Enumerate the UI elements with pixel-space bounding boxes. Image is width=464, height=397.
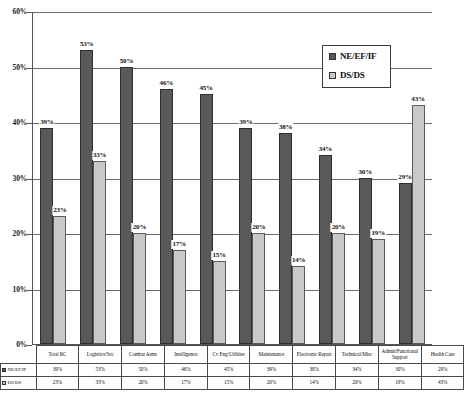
bar-group: 29%43% (392, 12, 432, 344)
bar-value-label: 17% (172, 240, 187, 249)
bar-ne-ef-if: 50% (120, 67, 133, 345)
bar-group: 38%14% (272, 12, 312, 344)
bar-value-label: 20% (331, 223, 346, 232)
bar-group: 46%17% (153, 12, 193, 344)
bar-ne-ef-if: 34% (319, 155, 332, 344)
bar-value-label: 43% (410, 95, 425, 104)
bar-ne-ef-if: 39% (239, 128, 252, 344)
bar-ne-ef-if: 46% (160, 89, 173, 344)
y-axis-label: 50% (0, 63, 27, 72)
bar-group: 39%23% (34, 12, 74, 344)
table-value-cell: 17% (164, 377, 207, 390)
table-value-cell: 45% (207, 364, 250, 377)
table-swatch-icon (2, 368, 6, 372)
table-row: DS/DS23%33%20%17%15%20%14%20%19%43% (1, 377, 464, 390)
bar-value-label: 46% (159, 79, 174, 88)
bar-ds-ds: 20% (252, 233, 265, 344)
table-value-cell: 30% (378, 364, 421, 377)
bar-group: 39%20% (232, 12, 272, 344)
table-value-cell: 46% (164, 364, 207, 377)
bar-value-label: 39% (39, 118, 54, 127)
bar-value-label: 45% (198, 84, 213, 93)
category-header-cell: Intelligence (164, 346, 207, 364)
table-corner-cell (1, 346, 37, 364)
bar-ds-ds: 43% (412, 105, 425, 344)
bar-ds-ds: 23% (53, 216, 66, 344)
bar-ds-ds: 14% (292, 266, 305, 344)
category-header-cell: Health Care (421, 346, 464, 364)
table-value-cell: 39% (250, 364, 293, 377)
category-header-cell: Cv Eng/Utilities (207, 346, 250, 364)
bar-ne-ef-if: 38% (279, 133, 292, 344)
bar-value-label: 39% (238, 118, 253, 127)
y-axis-label: 10% (0, 285, 27, 294)
table-value-cell: 14% (293, 377, 336, 390)
bar-value-label: 34% (318, 145, 333, 154)
table-row: Total RCLogistics/SvcCombat ArmsIntellig… (1, 346, 464, 364)
bar-ne-ef-if: 45% (200, 94, 213, 344)
table-value-cell: 19% (378, 377, 421, 390)
legend-label-0: NE/EF/IF (340, 51, 376, 61)
bar-group: 50%20% (113, 12, 153, 344)
bar-value-label: 20% (132, 223, 147, 232)
table-row-header: DS/DS (1, 377, 37, 390)
legend-item-0: NE/EF/IF (329, 51, 390, 61)
bar-group: 53%33% (73, 12, 113, 344)
table-value-cell: 38% (293, 364, 336, 377)
category-header-cell: Admin/Functional Support (378, 346, 421, 364)
legend-item-1: DS/DS (329, 70, 390, 80)
legend-swatch-light-icon (329, 72, 336, 79)
category-header-cell: Total RC (36, 346, 79, 364)
table-value-cell: 29% (421, 364, 464, 377)
table-value-cell: 20% (336, 377, 379, 390)
table-value-cell: 34% (336, 364, 379, 377)
table-row-label: NE/EF/IF (8, 367, 27, 373)
table-value-cell: 20% (250, 377, 293, 390)
bar-value-label: 14% (291, 256, 306, 265)
table-value-cell: 20% (122, 377, 165, 390)
data-table: Total RCLogistics/SvcCombat ArmsIntellig… (0, 345, 464, 390)
table-value-cell: 15% (207, 377, 250, 390)
bar-value-label: 30% (358, 168, 373, 177)
legend-label-1: DS/DS (340, 70, 365, 80)
category-header-cell: Electronic Repair (293, 346, 336, 364)
bar-ds-ds: 19% (372, 239, 385, 344)
bar-ds-ds: 15% (213, 261, 226, 344)
bar-value-label: 29% (397, 173, 412, 182)
bar-value-label: 33% (92, 151, 107, 160)
bar-ne-ef-if: 30% (359, 178, 372, 345)
bar-ds-ds: 20% (133, 233, 146, 344)
chart-legend: NE/EF/IF DS/DS (322, 45, 391, 88)
bar-group: 45%15% (193, 12, 233, 344)
bar-ne-ef-if: 39% (40, 128, 53, 344)
bar-ne-ef-if: 53% (80, 50, 93, 344)
table-value-cell: 39% (36, 364, 79, 377)
bar-value-label: 20% (251, 223, 266, 232)
bar-ds-ds: 20% (332, 233, 345, 344)
table-value-cell: 23% (36, 377, 79, 390)
y-axis-label: 20% (0, 229, 27, 238)
table-row-header: NE/EF/IF (1, 364, 37, 377)
table-value-cell: 53% (79, 364, 122, 377)
table-value-cell: 33% (79, 377, 122, 390)
category-header-cell: Maintenance (250, 346, 293, 364)
legend-swatch-dark-icon (329, 53, 336, 60)
bar-value-label: 19% (371, 229, 386, 238)
table-row-label: DS/DS (8, 380, 22, 386)
bar-ds-ds: 17% (173, 250, 186, 344)
bar-value-label: 15% (211, 251, 226, 260)
table-value-cell: 43% (421, 377, 464, 390)
table-value-cell: 50% (122, 364, 165, 377)
bar-value-label: 38% (278, 123, 293, 132)
category-header-cell: Combat Arms (122, 346, 165, 364)
bar-ds-ds: 33% (93, 161, 106, 344)
table-swatch-icon (2, 381, 6, 385)
y-axis-label: 30% (0, 174, 27, 183)
category-header-cell: Technical/Misc (336, 346, 379, 364)
y-axis-label: 40% (0, 118, 27, 127)
category-header-cell: Logistics/Svc (79, 346, 122, 364)
bar-value-label: 50% (119, 57, 134, 66)
bar-value-label: 53% (79, 40, 94, 49)
bar-value-label: 23% (52, 206, 67, 215)
